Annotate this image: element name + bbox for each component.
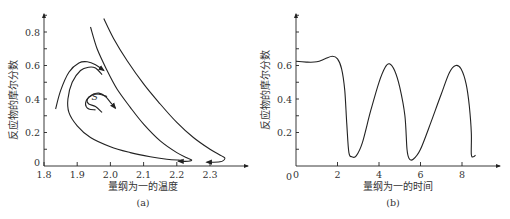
- panel-a-series-trajectory-5: [68, 67, 182, 160]
- panel-b-y-tick-label: 0.6: [277, 60, 292, 71]
- panel-a-series-trajectory-4: [104, 19, 225, 163]
- panel-b-x-tick-label: 8: [459, 169, 465, 180]
- panel-b-series-concentration-vs-time: [296, 56, 476, 160]
- figure: 1.81.92.02.12.22.3 00.20.40.60.8 S 量纲为一的…: [0, 0, 510, 219]
- panel-b-origin-label: 0: [286, 171, 292, 182]
- panel-a-y-tick-label: 0.4: [25, 94, 40, 105]
- panel-b-x-axis-title: 量纲为一的时间: [363, 180, 433, 192]
- panel-a-x-tick-label: 2.1: [136, 169, 151, 180]
- panel-a-y-axis-title: 反应物的摩尔分数: [7, 60, 19, 140]
- panel-a-x-tick-label: 2.2: [169, 169, 184, 180]
- panel-a-y-tick-label: 0.8: [25, 27, 40, 38]
- panel-b-time-series: 024680 0.20.40.6 量纲为一的时间 反应物的摩尔分数 (b): [259, 14, 500, 208]
- panel-b-x-tick-label: 0: [293, 169, 299, 180]
- panel-b-x-tick-label: 6: [417, 169, 423, 180]
- panel-a-y-tick-label: 0.6: [25, 60, 40, 71]
- panel-a-x-tick-label: 1.9: [70, 169, 85, 180]
- panel-a-series-trajectory-3: [91, 27, 192, 161]
- panel-b-y-tick-label: 0.4: [277, 94, 292, 105]
- panel-b-y-axis-title: 反应物的摩尔分数: [259, 50, 271, 130]
- panel-a-x-tick-label: 2.0: [103, 169, 118, 180]
- panel-a-y-tick-label: 0.2: [25, 127, 40, 138]
- panel-a-annotation-s: S: [91, 91, 98, 102]
- panel-b-x-tick-label: 2: [334, 169, 340, 180]
- panel-a-x-axis-title: 量纲为一的温度: [108, 180, 178, 192]
- panel-a-x-tick-label: 2.3: [202, 169, 217, 180]
- panel-b-label: (b): [386, 197, 400, 208]
- panel-a-y-tick-label: 0: [34, 157, 40, 168]
- panel-a-phase-plot: 1.81.92.02.12.22.3 00.20.40.60.8 S 量纲为一的…: [7, 14, 248, 208]
- panel-a-label: (a): [136, 197, 149, 208]
- panel-b-y-tick-label: 0.2: [277, 127, 292, 138]
- panel-a-x-tick-label: 1.8: [36, 169, 51, 180]
- panel-b-x-tick-label: 4: [376, 169, 382, 180]
